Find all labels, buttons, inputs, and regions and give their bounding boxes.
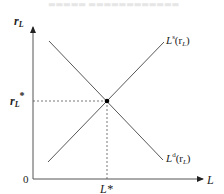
supply-demand-diagram: rL rL* 0 L L* Ls(rL) Ld(rL) (0, 0, 224, 194)
equilibrium-point (105, 99, 110, 104)
equilibrium-rate-label: rL* (10, 90, 25, 109)
equilibrium-quantity-label: L* (99, 182, 113, 194)
demand-curve-label: Ld(rL) (165, 151, 191, 166)
x-axis-label: L (206, 173, 214, 187)
origin-label: 0 (23, 173, 29, 185)
y-axis-label: rL (14, 14, 24, 29)
supply-curve-label: Ls(rL) (165, 33, 190, 48)
